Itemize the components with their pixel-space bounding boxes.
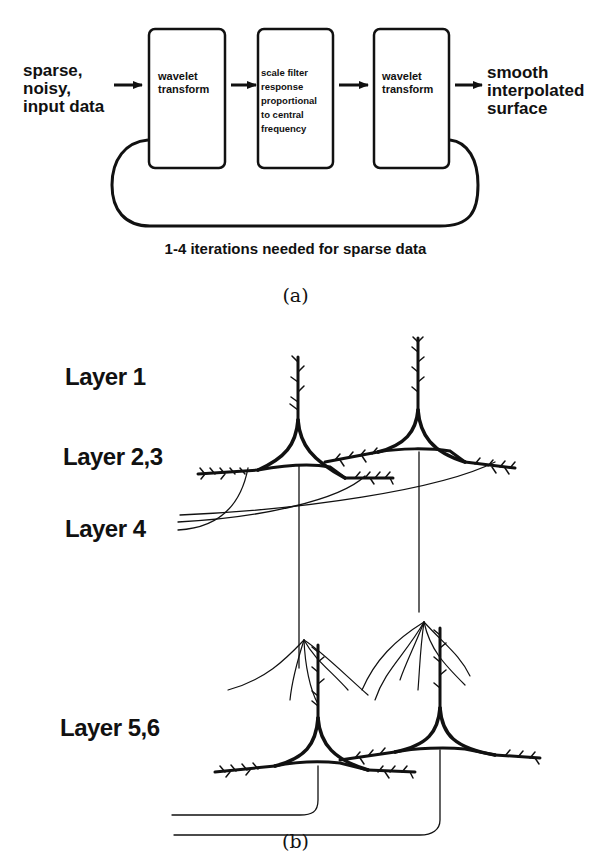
output-label-line: smooth: [487, 64, 584, 82]
upper-neuron-1: [198, 356, 393, 668]
box-text-line: transform: [382, 83, 433, 96]
sublabel-b: (b): [0, 830, 591, 852]
box-wavelet-transform-2: wavelet transform: [382, 70, 433, 96]
lower-neuron-1: [172, 645, 415, 815]
layer-label-5-6: Layer 5,6: [60, 714, 160, 742]
input-label-line: sparse,: [23, 62, 104, 80]
layer-label-2-3: Layer 2,3: [63, 443, 163, 471]
upper-neuron-2: [325, 337, 515, 612]
sublabel-a: (a): [0, 284, 591, 306]
box-text-line: to central: [261, 108, 317, 122]
box-wavelet-transform-1: wavelet transform: [158, 70, 209, 96]
output-label: smooth interpolated surface: [487, 64, 584, 118]
layer-label-1: Layer 1: [65, 363, 146, 391]
input-label-line: input data: [23, 98, 104, 116]
output-label-line: interpolated: [487, 82, 584, 100]
output-label-line: surface: [487, 100, 584, 118]
input-label-line: noisy,: [23, 80, 104, 98]
axon-terminal-arbors: [228, 622, 470, 704]
box-text-line: wavelet: [382, 70, 433, 83]
box-text-line: proportional: [261, 94, 317, 108]
input-label: sparse, noisy, input data: [23, 62, 104, 116]
box-outline-1: [149, 29, 225, 168]
layer-label-4: Layer 4: [65, 515, 146, 543]
box-text-line: scale filter: [261, 66, 317, 80]
box-scale-filter: scale filter response proportional to ce…: [261, 66, 317, 136]
box-text-line: response: [261, 80, 317, 94]
box-text-line: frequency: [261, 122, 317, 136]
loop-caption: 1-4 iterations needed for sparse data: [0, 240, 591, 257]
box-text-line: wavelet: [158, 70, 209, 83]
lower-neuron-2: [174, 628, 540, 835]
layer4-afferents: [178, 462, 495, 530]
box-outline-3: [374, 29, 449, 168]
box-text-line: transform: [158, 83, 209, 96]
